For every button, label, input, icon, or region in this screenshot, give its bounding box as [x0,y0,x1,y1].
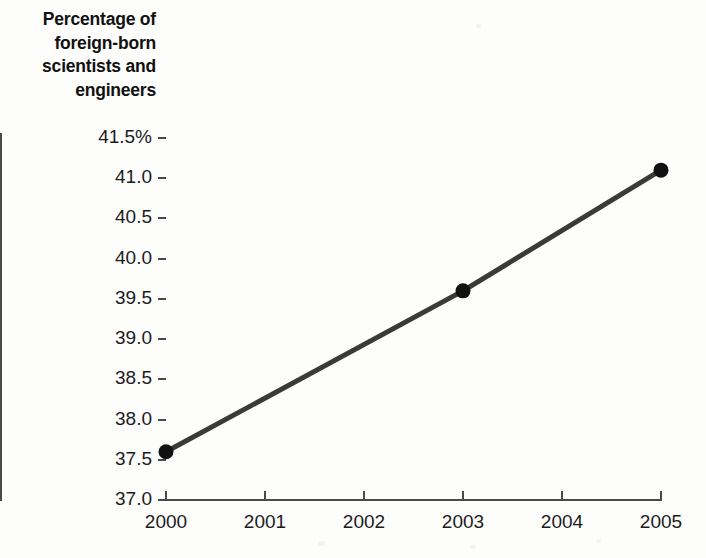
data-point-marker [159,444,174,459]
data-point-marker [456,283,471,298]
data-line [166,170,661,452]
scan-speckle [476,24,481,28]
chart-figure: Percentage of foreign-born scientists an… [0,0,706,558]
data-point-marker [654,163,669,178]
scan-speckle [596,539,601,543]
scan-speckle [470,545,476,549]
scan-speckle [318,541,325,546]
data-series-layer [0,0,706,558]
